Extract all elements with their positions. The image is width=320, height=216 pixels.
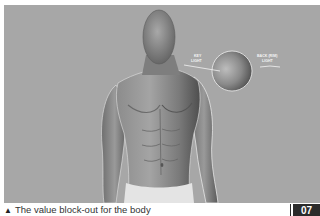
caption-text: The value block-out for the body xyxy=(15,204,151,215)
page-number: 07 xyxy=(293,204,320,216)
key-light-label-2: LIGHT xyxy=(191,59,203,63)
body-render: KEY LIGHT BACK (RIM) LIGHT xyxy=(4,5,320,203)
caption-triangle-icon: ▲ xyxy=(4,206,12,215)
figure-image: KEY LIGHT BACK (RIM) LIGHT xyxy=(4,5,320,203)
back-light-label-2: LIGHT xyxy=(262,59,274,63)
back-light-label-1: BACK (RIM) xyxy=(257,54,278,58)
page-divider xyxy=(290,204,291,216)
key-light-label-1: KEY xyxy=(194,54,202,58)
figure-caption: ▲The value block-out for the body xyxy=(4,204,151,216)
